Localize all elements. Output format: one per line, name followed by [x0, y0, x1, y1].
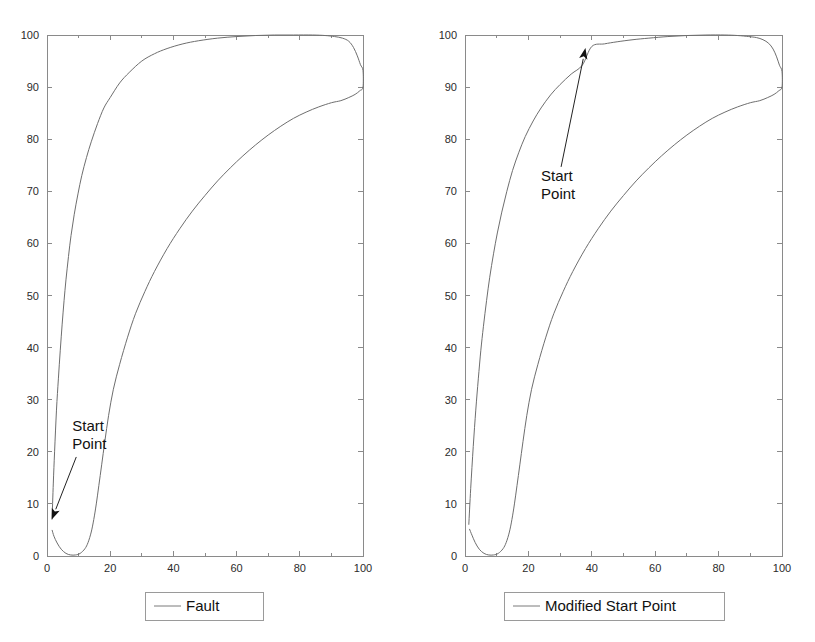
x-tick-label: 0	[44, 562, 50, 574]
y-tick-label: 80	[27, 133, 39, 145]
y-tick-label: 30	[27, 394, 39, 406]
x-tick-label: 60	[230, 562, 242, 574]
y-tick-label: 60	[445, 237, 457, 249]
x-tick-label: 40	[586, 562, 598, 574]
y-tick-label: 40	[445, 342, 457, 354]
y-tick-label: 40	[27, 342, 39, 354]
x-tick-label: 100	[354, 562, 372, 574]
y-tick-label: 90	[27, 81, 39, 93]
annotation-arrow-head	[579, 48, 587, 60]
y-tick-label: 0	[451, 550, 457, 562]
plot-panel-right: 0102030405060708090100020406080100StartP…	[408, 0, 815, 642]
y-tick-label: 20	[445, 446, 457, 458]
x-tick-label: 0	[462, 562, 468, 574]
legend-label: Fault	[186, 597, 220, 614]
data-curve	[469, 35, 783, 555]
annotation-leader-line	[56, 457, 77, 509]
axes-frame	[465, 35, 782, 556]
annotation-arrow-head	[52, 508, 60, 520]
y-tick-label: 90	[445, 81, 457, 93]
axes-frame	[47, 35, 363, 556]
x-tick-label: 60	[649, 562, 661, 574]
plot-svg-left: 0102030405060708090100020406080100StartP…	[0, 0, 408, 642]
x-tick-label: 80	[294, 562, 306, 574]
y-tick-label: 10	[27, 498, 39, 510]
y-tick-label: 30	[445, 394, 457, 406]
x-tick-label: 40	[167, 562, 179, 574]
x-tick-label: 20	[104, 562, 116, 574]
annotation-label-line2: Point	[72, 435, 107, 452]
annotation-label-line2: Point	[541, 185, 576, 202]
legend-label: Modified Start Point	[545, 597, 677, 614]
y-tick-label: 10	[445, 498, 457, 510]
y-tick-label: 20	[27, 446, 39, 458]
x-tick-label: 80	[712, 562, 724, 574]
annotation-leader-line	[561, 59, 583, 167]
annotation-label-line1: Start	[541, 167, 574, 184]
annotation-label-line1: Start	[72, 417, 105, 434]
y-tick-label: 70	[27, 185, 39, 197]
y-tick-label: 100	[21, 29, 39, 41]
x-tick-label: 20	[522, 562, 534, 574]
y-tick-label: 80	[445, 133, 457, 145]
y-tick-label: 100	[439, 29, 457, 41]
plot-svg-right: 0102030405060708090100020406080100StartP…	[408, 0, 815, 642]
y-tick-label: 50	[445, 290, 457, 302]
x-tick-label: 100	[773, 562, 791, 574]
y-tick-label: 0	[33, 550, 39, 562]
y-tick-label: 60	[27, 237, 39, 249]
figure-container: 0102030405060708090100020406080100StartP…	[0, 0, 815, 642]
plot-panel-left: 0102030405060708090100020406080100StartP…	[0, 0, 408, 642]
data-curve	[52, 35, 363, 555]
y-tick-label: 50	[27, 290, 39, 302]
y-tick-label: 70	[445, 185, 457, 197]
